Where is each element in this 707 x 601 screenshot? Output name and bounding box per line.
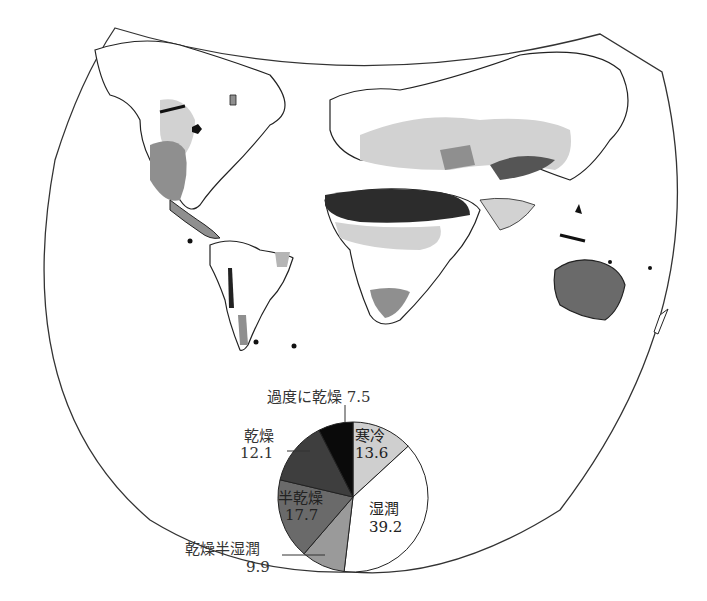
label-semiarid-name: 半乾燥 bbox=[278, 489, 323, 507]
label-humid-name: 湿潤 bbox=[369, 500, 399, 518]
label-humid-value: 39.2 bbox=[369, 518, 402, 536]
label-dry-subhumid-value: 9.9 bbox=[246, 558, 270, 576]
label-arid-name: 乾燥 bbox=[244, 427, 274, 445]
world-aridity-map bbox=[0, 0, 707, 601]
label-cold-value: 13.6 bbox=[355, 444, 388, 462]
label-arid-value: 12.1 bbox=[240, 444, 273, 462]
label-semiarid-value: 17.7 bbox=[285, 506, 318, 524]
label-dry-subhumid-name: 乾燥半湿潤 bbox=[185, 540, 260, 558]
label-hyper-arid: 過度に乾燥 7.5 bbox=[267, 388, 371, 406]
label-cold-name: 寒冷 bbox=[355, 427, 385, 445]
